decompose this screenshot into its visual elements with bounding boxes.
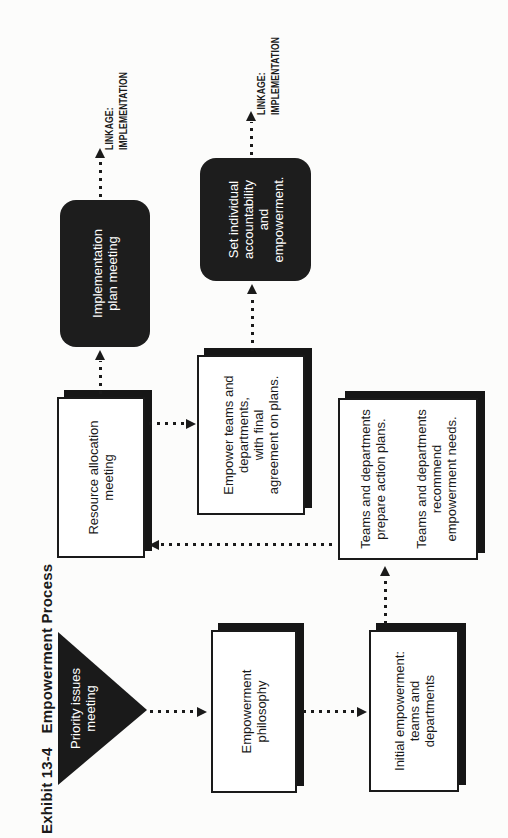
arrow-priority-to-philosophy bbox=[150, 710, 196, 713]
exhibit-name: Empowerment Process bbox=[38, 564, 55, 734]
arrowhead-up-icon bbox=[149, 540, 159, 550]
linkage-implementation-label-1: LINKAGE: IMPLEMENTATION bbox=[102, 72, 130, 150]
arrow-resource-to-implementation bbox=[99, 361, 102, 394]
node-priority-issues-meeting: Priority issues meeting bbox=[58, 632, 147, 785]
node-resource-allocation-meeting: Resource allocation meeting bbox=[57, 397, 145, 558]
arrowhead-down-icon bbox=[186, 419, 196, 429]
node-empowerment-philosophy: Empowerment philosophy bbox=[211, 630, 297, 793]
exhibit-title: Exhibit 13-4Empowerment Process bbox=[38, 564, 55, 834]
node-teams-departments: Teams and departments prepare action pla… bbox=[338, 398, 478, 560]
triangle-label: Priority issues meeting bbox=[68, 632, 98, 785]
arrow-accountability-to-linkage bbox=[250, 122, 253, 155]
scanned-page: Exhibit 13-4Empowerment Process Priority… bbox=[0, 0, 508, 838]
node-implementation-plan-meeting: Implementation plan meeting bbox=[60, 200, 150, 347]
arrow-teams-to-resource bbox=[161, 543, 337, 546]
teams-paragraph-2: Teams and departments recommend empowerm… bbox=[414, 409, 459, 548]
arrow-initial-to-teams bbox=[384, 577, 387, 624]
node-set-accountability: Set individual accountability and empowe… bbox=[200, 158, 311, 281]
arrow-empower-to-accountability bbox=[251, 295, 254, 351]
arrowhead-right-icon bbox=[247, 284, 257, 294]
exhibit-number: Exhibit 13-4 bbox=[38, 747, 55, 834]
node-empower-teams: Empower teams and departments, with fina… bbox=[197, 355, 305, 515]
linkage-implementation-label-2: LINKAGE: IMPLEMENTATION bbox=[254, 37, 282, 115]
arrowhead-right-icon bbox=[380, 566, 390, 576]
arrowhead-down-icon bbox=[357, 707, 367, 717]
arrowhead-right-icon bbox=[95, 350, 105, 360]
arrow-resource-to-empower bbox=[149, 422, 186, 425]
arrowhead-down-icon bbox=[197, 707, 207, 717]
node-initial-empowerment: Initial empowerment: teams and departmen… bbox=[369, 630, 459, 792]
arrow-philosophy-to-initial bbox=[303, 710, 356, 713]
arrow-implementation-to-linkage bbox=[99, 159, 102, 197]
empowerment-process-diagram: Exhibit 13-4Empowerment Process Priority… bbox=[0, 0, 508, 838]
teams-paragraph-1: Teams and departments prepare action pla… bbox=[358, 409, 388, 548]
